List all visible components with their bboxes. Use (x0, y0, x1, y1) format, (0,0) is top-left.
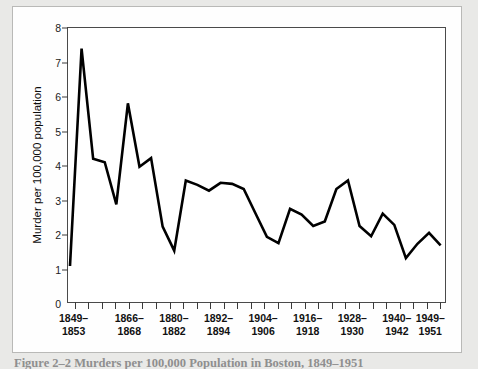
x-tick-label-end: 1882 (159, 325, 188, 338)
y-tick-mark (62, 269, 68, 270)
x-tick-label: 1892–1894 (204, 312, 233, 337)
x-tick-label-start: 1949– (416, 312, 445, 325)
x-tick-label-start: 1849– (59, 312, 88, 325)
x-tick-mark (88, 302, 89, 309)
line-series (68, 28, 445, 302)
x-tick-label: 1916–1918 (293, 312, 322, 337)
x-tick-label: 1940–1942 (382, 312, 411, 337)
x-tick-label-end: 1894 (204, 325, 233, 338)
y-tick-mark (62, 200, 68, 201)
x-tick-label: 1904–1906 (248, 312, 277, 337)
x-tick-mark (156, 302, 157, 309)
x-tick-label-start: 1904– (248, 312, 277, 325)
y-tick-label: 5 (55, 126, 61, 138)
y-tick-label: 2 (55, 229, 61, 241)
x-tick-mark (264, 302, 265, 309)
murder-rate-line (70, 49, 441, 266)
figure-panel: Murder per 100,000 population 0123456781… (12, 6, 462, 353)
x-tick-mark (413, 302, 414, 309)
y-tick-mark (62, 235, 68, 236)
x-tick-label-end: 1918 (293, 325, 322, 338)
x-tick-label: 1849–1853 (59, 312, 88, 337)
x-tick-mark (75, 302, 76, 309)
x-tick-mark (278, 302, 279, 309)
x-tick-mark (373, 302, 374, 309)
y-tick-mark (62, 131, 68, 132)
x-tick-label-start: 1928– (338, 312, 367, 325)
x-tick-mark (400, 302, 401, 309)
x-tick-mark (115, 302, 116, 309)
x-tick-mark (142, 302, 143, 309)
x-tick-label-start: 1880– (159, 312, 188, 325)
y-tick-label: 3 (55, 195, 61, 207)
y-tick-mark (62, 28, 68, 29)
x-tick-mark (345, 302, 346, 309)
x-tick-mark (291, 302, 292, 309)
x-tick-label: 1880–1882 (159, 312, 188, 337)
y-tick-label: 8 (55, 22, 61, 34)
x-tick-mark (210, 302, 211, 309)
x-tick-mark (197, 302, 198, 309)
x-tick-label-end: 1930 (338, 325, 367, 338)
y-tick-label: 0 (55, 298, 61, 310)
x-tick-mark (386, 302, 387, 309)
x-tick-mark (102, 302, 103, 309)
x-tick-mark (237, 302, 238, 309)
y-tick-label: 6 (55, 91, 61, 103)
x-tick-label-start: 1866– (115, 312, 144, 325)
x-tick-mark (129, 302, 130, 309)
x-tick-label-start: 1892– (204, 312, 233, 325)
x-tick-label-start: 1940– (382, 312, 411, 325)
x-tick-mark (359, 302, 360, 309)
y-tick-mark (62, 97, 68, 98)
x-tick-mark (224, 302, 225, 309)
y-axis-title: Murder per 100,000 population (31, 86, 43, 243)
x-tick-label: 1949–1951 (416, 312, 445, 337)
y-tick-label: 1 (55, 264, 61, 276)
x-tick-label-end: 1951 (416, 325, 445, 338)
x-tick-mark (251, 302, 252, 309)
plot-area: 0123456781849–18531866–18681880–18821892… (67, 27, 446, 303)
x-tick-mark (440, 302, 441, 309)
x-tick-label-end: 1942 (382, 325, 411, 338)
y-tick-label: 4 (55, 160, 61, 172)
x-tick-mark (427, 302, 428, 309)
y-tick-mark (62, 62, 68, 63)
figure-caption: Figure 2–2 Murders per 100,000 Populatio… (14, 356, 474, 369)
x-tick-label-end: 1853 (59, 325, 88, 338)
x-tick-mark (183, 302, 184, 309)
y-tick-label: 7 (55, 57, 61, 69)
x-tick-mark (318, 302, 319, 309)
x-tick-label: 1866–1868 (115, 312, 144, 337)
y-tick-mark (62, 166, 68, 167)
x-tick-label-end: 1868 (115, 325, 144, 338)
x-tick-mark (305, 302, 306, 309)
x-tick-mark (332, 302, 333, 309)
x-tick-label-start: 1916– (293, 312, 322, 325)
x-tick-label: 1928–1930 (338, 312, 367, 337)
x-tick-label-end: 1906 (248, 325, 277, 338)
x-tick-mark (170, 302, 171, 309)
